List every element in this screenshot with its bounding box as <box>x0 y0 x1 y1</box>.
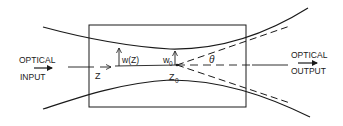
output-label-line1: OPTICAL <box>291 50 328 60</box>
wz-label: w(Z) <box>121 55 139 65</box>
z0-subscript: 0 <box>175 77 179 84</box>
asymptote-upper <box>177 26 290 65</box>
beam-envelope-lower <box>43 80 310 117</box>
theta-label: θ <box>209 54 215 65</box>
z-label: Z <box>95 71 101 81</box>
asymptote-lower <box>177 65 290 103</box>
optical-axis-center <box>115 65 177 66</box>
beam-envelope-upper <box>43 8 308 49</box>
input-label-line2: INPUT <box>20 72 46 82</box>
input-label-line1: OPTICAL <box>19 55 56 65</box>
medium-box <box>89 25 246 107</box>
output-label-line2: OUTPUT <box>291 66 326 76</box>
w0-subscript: 0 <box>169 60 173 67</box>
gaussian-beam-diagram: OPTICAL INPUT OPTICAL OUTPUT Z w(Z) w 0 … <box>0 0 343 126</box>
waist-point <box>176 64 179 67</box>
